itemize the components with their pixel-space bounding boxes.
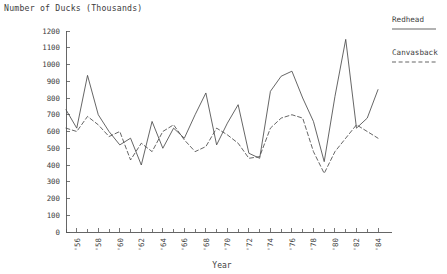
axis-lines	[66, 31, 392, 232]
y-axis-tick-labels: 0100200300400500600700800900100011001200	[42, 27, 60, 237]
x-axis-tick-label: '62	[137, 238, 146, 251]
x-axis-tick-label: '80	[331, 238, 340, 251]
y-axis-tick-label: 600	[47, 127, 60, 136]
x-axis-tick-label: '66	[180, 238, 189, 251]
y-axis-tick-label: 800	[47, 94, 60, 103]
y-axis-tick-label: 300	[47, 177, 60, 186]
chart-svg: Number of Ducks (Thousands) 010020030040…	[0, 0, 447, 274]
x-axis-tick-label: '60	[116, 238, 125, 251]
x-axis-title: Year	[212, 261, 231, 270]
x-axis-tick-label: '84	[374, 237, 383, 251]
x-axis-tick-label: '64	[159, 237, 168, 251]
x-axis-tick-label: '76	[288, 238, 297, 251]
y-axis-tick-label: 900	[47, 77, 60, 86]
data-series-group	[66, 39, 378, 173]
legend-label-canvasback: Canvasback	[392, 48, 438, 57]
y-axis-tick-label: 200	[47, 194, 60, 203]
duck-population-line-chart: Number of Ducks (Thousands) 010020030040…	[0, 0, 447, 274]
x-axis-tick-label: '70	[223, 238, 232, 251]
x-axis-tick-label: '72	[245, 238, 254, 251]
y-axis-tick-label: 1100	[42, 43, 60, 52]
y-axis-tick-label: 100	[47, 211, 60, 220]
x-axis-tick-label: '82	[352, 238, 361, 251]
y-axis-ticks	[66, 31, 70, 232]
y-axis-tick-label: 1000	[42, 60, 60, 69]
y-axis-tick-label: 1200	[42, 27, 60, 36]
series-line-redhead	[66, 39, 378, 165]
x-axis-tick-label: '58	[94, 238, 103, 251]
chart-legend: RedheadCanvasback	[392, 15, 438, 62]
x-axis-tick-label: '56	[73, 238, 82, 251]
chart-title-group: Number of Ducks (Thousands)	[4, 3, 143, 13]
chart-title: Number of Ducks (Thousands)	[4, 3, 143, 13]
x-axis-tick-label: '74	[266, 237, 275, 251]
y-axis-tick-label: 700	[47, 110, 60, 119]
y-axis-tick-label: 500	[47, 144, 60, 153]
y-axis-tick-label: 0	[56, 228, 60, 237]
x-axis-tick-label: '78	[309, 238, 318, 251]
legend-label-redhead: Redhead	[392, 15, 424, 24]
x-axis-tick-label: '68	[202, 238, 211, 251]
series-line-canvasback	[66, 115, 378, 174]
y-axis-tick-label: 400	[47, 161, 60, 170]
x-axis-tick-labels: '56'58'60'62'64'66'68'70'72'74'76'78'80'…	[73, 237, 383, 251]
x-axis-ticks	[66, 228, 378, 233]
